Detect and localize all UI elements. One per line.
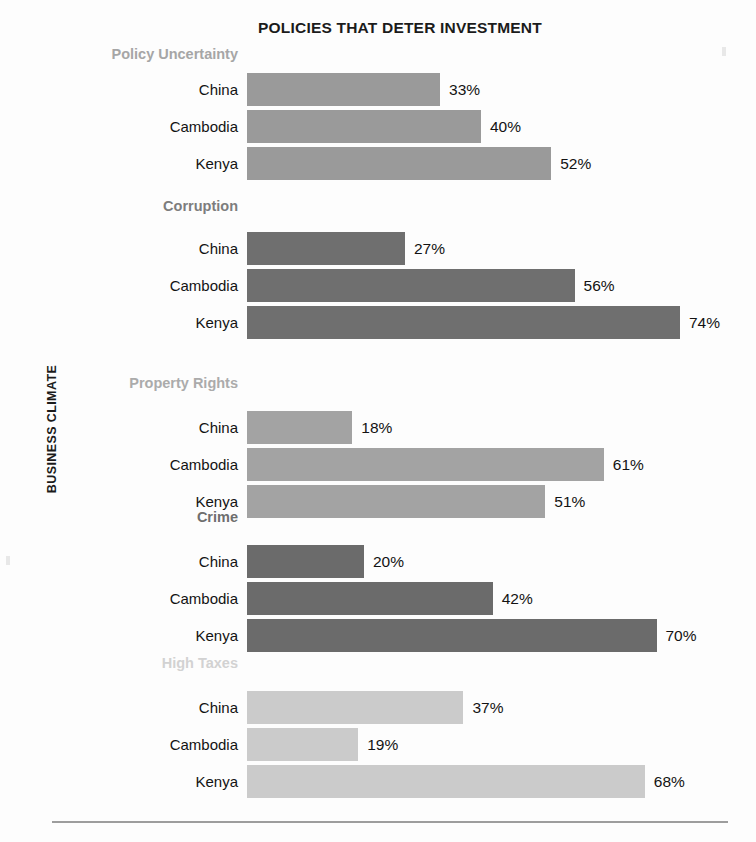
- bar-row: China37%: [0, 691, 756, 724]
- bar-value-label: 42%: [493, 582, 533, 615]
- bar-row-label: Kenya: [0, 765, 238, 798]
- bar: [247, 147, 551, 180]
- bar-row: Cambodia61%: [0, 448, 756, 481]
- bar-row-label: Cambodia: [0, 110, 238, 143]
- bar-row: China20%: [0, 545, 756, 578]
- bar-row-label: Kenya: [0, 306, 238, 339]
- bar-row-label: Cambodia: [0, 728, 238, 761]
- bar-group-label: High Taxes: [0, 655, 238, 671]
- scan-artifact: [6, 556, 10, 565]
- scan-artifact: [722, 47, 726, 56]
- bar-track: 51%: [247, 485, 756, 518]
- bar: [247, 306, 680, 339]
- bar-row: China27%: [0, 232, 756, 265]
- bar: [247, 691, 463, 724]
- bar-track: 27%: [247, 232, 756, 265]
- bar-track: 74%: [247, 306, 756, 339]
- bar-row: Cambodia42%: [0, 582, 756, 615]
- bar-track: 37%: [247, 691, 756, 724]
- bar-value-label: 68%: [645, 765, 685, 798]
- bar: [247, 765, 645, 798]
- bar-row: Cambodia40%: [0, 110, 756, 143]
- plot-area: Policy UncertaintyChina33%Cambodia40%Ken…: [0, 0, 756, 842]
- bar-value-label: 56%: [575, 269, 615, 302]
- bar-track: 19%: [247, 728, 756, 761]
- bar: [247, 269, 575, 302]
- bar-group-label: Crime: [0, 509, 238, 525]
- bar: [247, 73, 440, 106]
- bar-track: 42%: [247, 582, 756, 615]
- bar-group-label: Property Rights: [0, 375, 238, 391]
- bar-track: 52%: [247, 147, 756, 180]
- bar-row: Kenya70%: [0, 619, 756, 652]
- bar-group-label: Policy Uncertainty: [0, 46, 238, 62]
- bar-value-label: 51%: [545, 485, 585, 518]
- bar-group-label: Corruption: [0, 198, 238, 214]
- bar-row-label: Cambodia: [0, 582, 238, 615]
- bar-value-label: 27%: [405, 232, 445, 265]
- bar-track: 56%: [247, 269, 756, 302]
- bar-track: 18%: [247, 411, 756, 444]
- bar-row: Kenya52%: [0, 147, 756, 180]
- bottom-divider: [52, 821, 728, 823]
- bar: [247, 545, 364, 578]
- bar-row: Cambodia56%: [0, 269, 756, 302]
- bar: [247, 619, 657, 652]
- bar-row: Kenya74%: [0, 306, 756, 339]
- bar-row-label: China: [0, 73, 238, 106]
- bar-value-label: 70%: [657, 619, 697, 652]
- bar-row-label: China: [0, 411, 238, 444]
- bar-value-label: 33%: [440, 73, 480, 106]
- bar-row: Cambodia19%: [0, 728, 756, 761]
- bar-row: China33%: [0, 73, 756, 106]
- bar: [247, 110, 481, 143]
- bar-value-label: 40%: [481, 110, 521, 143]
- bar-row-label: China: [0, 232, 238, 265]
- bar-row-label: Cambodia: [0, 448, 238, 481]
- bar-value-label: 61%: [604, 448, 644, 481]
- bar-track: 40%: [247, 110, 756, 143]
- bar-row-label: China: [0, 691, 238, 724]
- bar-value-label: 74%: [680, 306, 720, 339]
- bar-track: 61%: [247, 448, 756, 481]
- bar: [247, 582, 493, 615]
- bar: [247, 448, 604, 481]
- chart-root: POLICIES THAT DETER INVESTMENT BUSINESS …: [0, 0, 756, 842]
- bar-row: China18%: [0, 411, 756, 444]
- bar-track: 33%: [247, 73, 756, 106]
- bar: [247, 728, 358, 761]
- bar: [247, 411, 352, 444]
- bar-row-label: Kenya: [0, 147, 238, 180]
- bar-track: 20%: [247, 545, 756, 578]
- bar-row-label: Kenya: [0, 619, 238, 652]
- bar-row-label: Cambodia: [0, 269, 238, 302]
- bar-track: 68%: [247, 765, 756, 798]
- bar-value-label: 52%: [551, 147, 591, 180]
- bar-value-label: 37%: [463, 691, 503, 724]
- bar-row: Kenya68%: [0, 765, 756, 798]
- bar: [247, 232, 405, 265]
- bar: [247, 485, 545, 518]
- bar-value-label: 20%: [364, 545, 404, 578]
- bar-value-label: 19%: [358, 728, 398, 761]
- bar-track: 70%: [247, 619, 756, 652]
- bar-row-label: China: [0, 545, 238, 578]
- bar-value-label: 18%: [352, 411, 392, 444]
